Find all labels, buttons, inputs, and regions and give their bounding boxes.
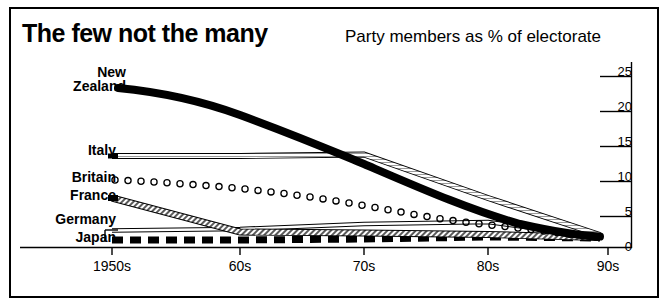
x-tick-90s: 90s — [597, 258, 620, 274]
series-label-new-zealand-line2: Zealand — [73, 78, 126, 94]
chart-title: The few not the many — [22, 19, 268, 48]
x-tick-70s: 70s — [353, 258, 376, 274]
y-tick-15: 15 — [606, 134, 632, 149]
series-label-new-zealand: New Zealand — [34, 65, 126, 93]
series-label-germany: Germany — [16, 212, 116, 226]
x-tick-60s: 60s — [229, 258, 252, 274]
y-tick-0: 0 — [606, 239, 632, 254]
x-tick-80s: 80s — [477, 258, 500, 274]
y-tick-25: 25 — [606, 64, 632, 79]
y-tick-20: 20 — [606, 99, 632, 114]
series-label-france: France — [28, 188, 116, 202]
y-tick-10: 10 — [606, 169, 632, 184]
chart-subtitle: Party members as % of electorate — [345, 27, 601, 47]
series-label-britain: Britain — [28, 170, 116, 184]
series-label-japan: Japan — [26, 230, 116, 244]
y-tick-5: 5 — [606, 204, 632, 219]
x-tick-1950s: 1950s — [93, 258, 131, 274]
series-label-italy: Italy — [38, 143, 116, 157]
